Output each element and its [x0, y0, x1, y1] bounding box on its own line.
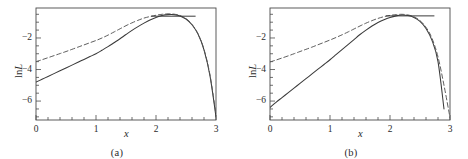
figure-container: lnL x (a) 0123−2−4−6 lnL x (b) 0123−2−4−… [0, 0, 468, 159]
y-tick-label-a-1: −4 [10, 64, 32, 74]
x-tick-label-b-0: 0 [256, 124, 284, 134]
panel-b: lnL x (b) 0123−2−4−6 [234, 0, 468, 159]
y-axis-ticks-b [270, 14, 275, 117]
y-tick-label-b-2: −6 [244, 95, 266, 105]
y-axis-ticks-a [36, 14, 41, 117]
dashed-curve-b [270, 14, 450, 117]
plot-area-b [234, 0, 468, 159]
x-tick-label-a-1: 1 [82, 124, 110, 134]
dashed-curve-a [36, 14, 216, 115]
x-tick-label-b-3: 3 [436, 124, 464, 134]
panel-a: lnL x (a) 0123−2−4−6 [0, 0, 234, 159]
y-tick-label-a-0: −2 [10, 32, 32, 42]
plot-area-a [0, 0, 234, 159]
x-tick-label-a-0: 0 [22, 124, 50, 134]
x-axis-ticks-b [270, 115, 450, 120]
x-axis-title-b: x [358, 128, 363, 139]
x-axis-title-a: x [124, 128, 129, 139]
solid-curve-a [36, 14, 216, 116]
solid-curve-b [270, 15, 444, 109]
x-tick-label-b-1: 1 [316, 124, 344, 134]
panel-caption-b: (b) [234, 147, 468, 158]
y-tick-label-b-0: −2 [244, 32, 266, 42]
panel-caption-a: (a) [0, 147, 234, 158]
plot-frame-a [36, 8, 216, 120]
x-tick-label-b-2: 2 [376, 124, 404, 134]
x-tick-label-a-3: 3 [202, 124, 230, 134]
x-tick-label-a-2: 2 [142, 124, 170, 134]
x-axis-ticks-a [36, 115, 216, 120]
y-tick-label-b-1: −4 [244, 64, 266, 74]
y-tick-label-a-2: −6 [10, 95, 32, 105]
